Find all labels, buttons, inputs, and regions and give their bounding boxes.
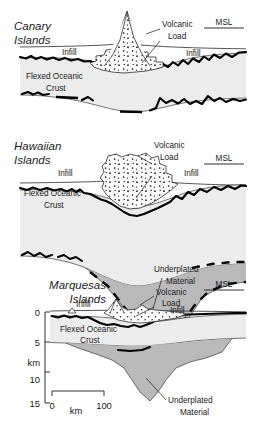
infill-label-marquesas-left: Infill [76, 300, 91, 309]
crust-label-canary-line1: Flexed Oceanic [26, 72, 83, 81]
panel-title-hawaiian-line1: Hawaiian [14, 140, 61, 152]
panel-title-marquesas-line1: Marquesas [49, 279, 106, 291]
infill-label-canary-right: Infill [186, 49, 201, 58]
volcanic-load-leader-canary [146, 29, 160, 34]
crust-label-marquesas-line1: Flexed Oceanic [60, 325, 117, 334]
volcanic-load-label-hawaiian-line1: Volcanic [154, 141, 185, 150]
underplated-label-hawaiian-line2: Material [166, 277, 195, 286]
scale-bar-unit-label: km [70, 405, 83, 416]
crust-label-hawaiian-line1: Flexed Oceanic [24, 189, 81, 198]
infill-label-hawaiian-right: Infill [184, 169, 199, 178]
panel-canary: MSL Canary Islands Volcanic Load Infill [14, 11, 246, 112]
depth-tick-label-10: 10 [30, 374, 40, 385]
volcanic-load-label-marquesas-line1: Volcanic [156, 288, 187, 297]
msl-label-hawaiian: MSL [216, 154, 233, 163]
volcanic-load-label-hawaiian-line2: Load [160, 153, 179, 162]
scale-bar-label-end: 100 [96, 400, 112, 411]
depth-tick-label-0: 0 [35, 307, 40, 318]
msl-label-marquesas: MSL [216, 280, 233, 289]
volcanic-load-label-canary-line2: Load [168, 32, 187, 41]
panel-hawaiian: MSL Hawaiian Islands Volcanic [14, 140, 246, 334]
depth-tick-label-15: 15 [30, 398, 40, 409]
infill-label-hawaiian-left: Infill [58, 169, 73, 178]
volcanic-load-label-canary-line1: Volcanic [162, 20, 193, 29]
underplated-label-marquesas-line2: Material [180, 408, 209, 417]
panel-title-canary-line2: Islands [14, 34, 51, 46]
island-cross-section-figure: MSL Canary Islands Volcanic Load Infill [0, 0, 264, 436]
msl-label-canary: MSL [216, 18, 233, 27]
crust-label-marquesas-line2: Crust [80, 336, 100, 345]
moho-reflector-canary-b [56, 97, 78, 98]
volcanic-load-body-canary [90, 11, 163, 73]
depth-axis-unit-label: km [28, 357, 41, 368]
crust-label-hawaiian-line2: Crust [44, 201, 64, 210]
crust-label-canary-line2: Crust [46, 84, 66, 93]
underplated-label-hawaiian-line1: Underplated [154, 265, 199, 274]
panel-title-hawaiian-line2: Islands [14, 154, 51, 166]
depth-tick-label-5: 5 [35, 337, 40, 348]
infill-label-canary-left: Infill [62, 48, 77, 57]
infill-label-marquesas-right: Infill [170, 306, 185, 315]
moho-reflector-canary-d [120, 112, 142, 113]
underplated-label-marquesas-line1: Underplated [168, 396, 213, 405]
scale-bar-label-start: 0 [49, 400, 54, 411]
panel-title-canary-line1: Canary [14, 20, 52, 32]
